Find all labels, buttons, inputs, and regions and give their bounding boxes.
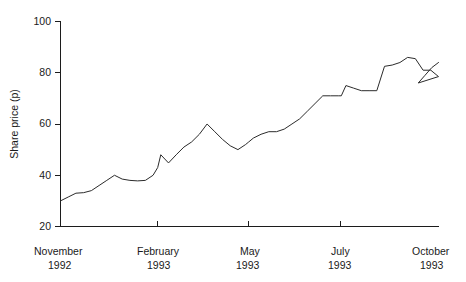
y-tick-label-80: 80 [39, 66, 51, 78]
share-price-chart: 100 80 60 40 20 November 1992 February 1… [0, 0, 466, 282]
axis-frame [61, 22, 439, 227]
x-label-year-may: 1993 [236, 259, 260, 271]
x-label-year-november: 1992 [48, 259, 72, 271]
y-axis-title: Share price (p) [8, 89, 20, 158]
y-axis-ticks [55, 22, 61, 227]
x-label-month-october: October [412, 245, 450, 257]
y-axis-labels: 100 80 60 40 20 [33, 15, 51, 232]
y-tick-label-100: 100 [33, 15, 51, 27]
x-label-month-february: February [137, 245, 180, 257]
x-label-month-may: May [240, 245, 261, 257]
x-label-month-july: July [331, 245, 350, 257]
x-axis-labels: November 1992 February 1993 May 1993 Jul… [34, 245, 450, 271]
x-label-year-october: 1993 [420, 259, 444, 271]
x-label-month-november: November [34, 245, 83, 257]
x-axis-ticks [158, 221, 341, 227]
y-tick-label-40: 40 [39, 169, 51, 181]
x-label-year-february: 1993 [147, 259, 171, 271]
y-tick-label-60: 60 [39, 117, 51, 129]
x-label-year-july: 1993 [328, 259, 352, 271]
share-price-line [61, 57, 439, 201]
y-tick-label-20: 20 [39, 220, 51, 232]
chart-canvas: 100 80 60 40 20 November 1992 February 1… [0, 0, 466, 282]
